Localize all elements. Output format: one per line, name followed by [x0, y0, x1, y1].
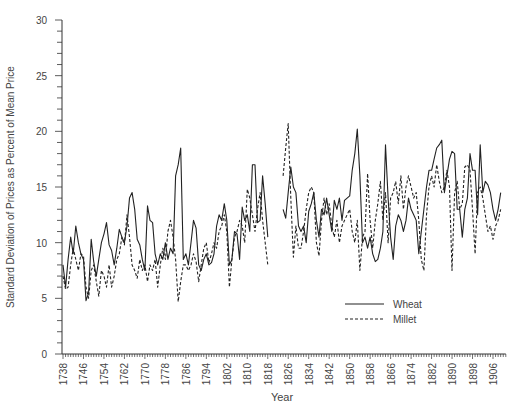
x-tick-label: 1882 [427, 363, 438, 386]
x-axis-label: Year [271, 391, 294, 403]
x-axis: 1738174617541762177017781786179418021810… [58, 354, 506, 385]
y-tick-label: 20 [36, 126, 48, 137]
x-tick-label: 1762 [119, 363, 130, 386]
x-tick-label: 1874 [406, 363, 417, 386]
x-tick-label: 1794 [201, 363, 212, 386]
x-tick-label: 1786 [181, 363, 192, 386]
line-chart: 051015202530 173817461754176217701778178… [0, 0, 517, 417]
x-tick-label: 1906 [488, 363, 499, 386]
x-tick-label: 1810 [242, 363, 253, 386]
x-tick-label: 1842 [324, 363, 335, 386]
y-tick-label: 10 [36, 238, 48, 249]
x-tick-label: 1802 [222, 363, 233, 386]
x-tick-label: 1754 [99, 363, 110, 386]
x-tick-label: 1890 [447, 363, 458, 386]
x-tick-label: 1738 [58, 363, 69, 386]
x-tick-label: 1826 [283, 363, 294, 386]
x-tick-label: 1834 [304, 363, 315, 386]
legend-wheat-label: Wheat [393, 299, 422, 310]
x-tick-label: 1898 [468, 363, 479, 386]
y-axis: 051015202530 [36, 15, 62, 360]
series-wheat-line [63, 148, 268, 301]
x-tick-label: 1858 [365, 363, 376, 386]
x-tick-label: 1746 [78, 363, 89, 386]
y-tick-label: 15 [36, 182, 48, 193]
y-tick-label: 5 [41, 293, 47, 304]
series-layer [63, 124, 501, 302]
x-tick-label: 1818 [263, 363, 274, 386]
x-tick-label: 1866 [386, 363, 397, 386]
legend-millet-label: Millet [393, 314, 417, 325]
legend: Wheat Millet [345, 299, 422, 325]
y-tick-label: 25 [36, 71, 48, 82]
y-axis-label: Standard Deviation of Prices as Percent … [5, 66, 16, 308]
x-tick-label: 1770 [140, 363, 151, 386]
y-tick-label: 30 [36, 15, 48, 26]
x-tick-label: 1850 [345, 363, 356, 386]
y-tick-label: 0 [41, 349, 47, 360]
x-tick-label: 1778 [160, 363, 171, 386]
